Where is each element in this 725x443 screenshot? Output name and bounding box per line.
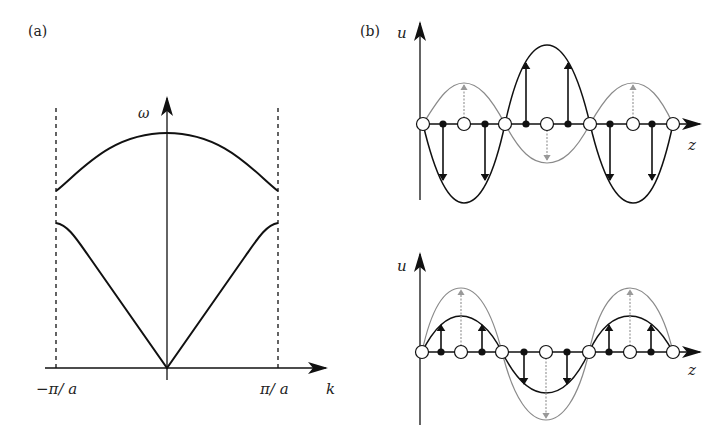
pi-over-a-label: π/ a xyxy=(259,380,289,398)
figure-canvas: (a) ω k −π/ a π/ a (b) u z xyxy=(0,0,725,443)
panel-b-label: (b) xyxy=(360,23,380,39)
z-axis-label-top: z xyxy=(687,136,696,154)
u-axis-label-bottom: u xyxy=(397,257,407,275)
minus-pi-over-a-label: −π/ a xyxy=(36,380,77,398)
omega-axis-label: ω xyxy=(138,105,150,121)
panel-a-label: (a) xyxy=(28,23,47,39)
z-axis-label-bottom: z xyxy=(687,361,696,379)
u-axis-label-top: u xyxy=(397,24,407,42)
k-axis-label: k xyxy=(326,380,335,398)
panel-b-bottom: u z xyxy=(397,254,700,425)
panel-a: (a) ω k −π/ a π/ a xyxy=(28,23,335,398)
panel-b-top: (b) u z xyxy=(360,23,700,203)
